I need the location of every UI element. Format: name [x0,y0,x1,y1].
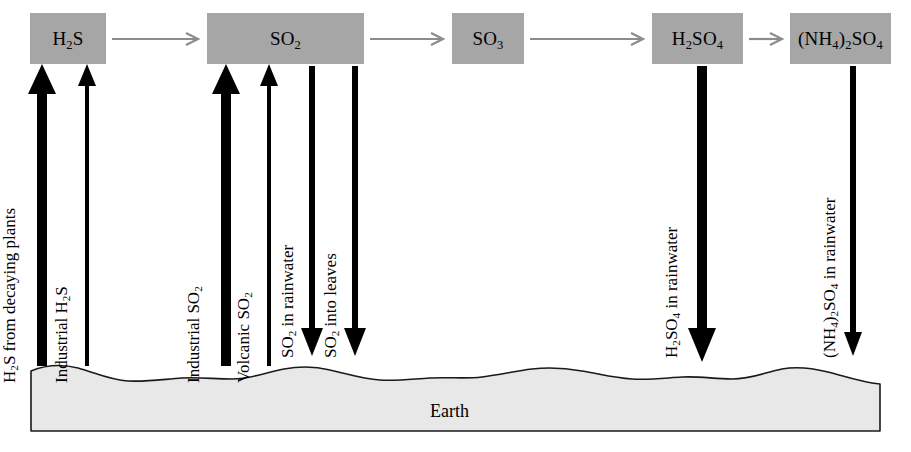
flux-label-so2-rainwater: SO2 in rainwater [279,245,296,358]
connector-so2-to-so3 [370,32,447,46]
flux-label-so2-volcanic: Volcanic SO2 [235,292,252,383]
compound-box-so3[interactable]: SO3 [452,13,524,64]
flux-arrow-nh4so4-rainwater [842,66,864,356]
connector-so3-to-h2so4 [530,32,647,46]
compound-box-nh4-2-so4-label: (NH4)2SO4 [798,29,883,48]
flux-arrow-so2-volcanic [258,64,280,366]
compound-box-h2s[interactable]: H2S [30,13,106,64]
compound-box-so2[interactable]: SO2 [207,13,364,64]
flux-label-h2s-industrial: Industrial H2S [53,286,70,383]
compound-box-nh4-2-so4[interactable]: (NH4)2SO4 [790,13,891,64]
earth-label: Earth [430,401,469,422]
compound-box-so2-label: SO2 [270,29,301,48]
flux-arrow-h2s-industrial [76,64,98,366]
sulfur-cycle-diagram: Earth H2S SO2 SO3 H2SO4 (NH4)2SO4 [0,0,911,452]
flux-label-h2s-decaying: H2S from decaying plants [1,208,18,383]
flux-arrow-so2-leaves [343,66,367,356]
compound-box-h2so4[interactable]: H2SO4 [652,13,743,64]
compound-box-h2s-label: H2S [52,29,83,48]
connector-h2s-to-so2 [112,32,202,46]
connector-h2so4-to-nh4-2-so4 [749,32,786,46]
flux-arrow-h2so4-rainwater [686,66,718,362]
flux-label-so2-leaves: SO2 into leaves [322,253,339,358]
flux-label-h2so4-rainwater: H2SO4 in rainwater [663,227,680,358]
compound-box-h2so4-label: H2SO4 [672,29,724,48]
flux-label-nh4so4-rainwater: (NH4)2SO4 in rainwater [821,198,838,358]
flux-label-so2-industrial: Industrial SO2 [185,286,202,383]
compound-box-so3-label: SO3 [472,29,503,48]
earth-ground [0,0,911,452]
